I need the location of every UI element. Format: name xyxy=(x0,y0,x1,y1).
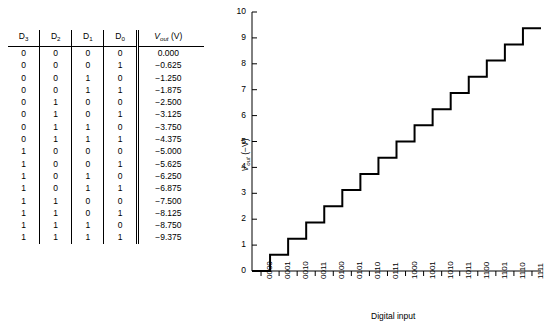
table-body: 00000.0000001−0.6250010−1.2500011−1.8750… xyxy=(8,47,204,244)
staircase-trace xyxy=(252,28,541,271)
table-row: 0010−1.250 xyxy=(8,72,204,84)
y-tick-label: 5 xyxy=(230,136,246,146)
x-tick-label: 1100 xyxy=(482,262,491,279)
cell-d1: 1 xyxy=(72,182,104,194)
cell-vout: −5.000 xyxy=(137,145,204,157)
table-row: 0001−0.625 xyxy=(8,59,204,71)
cell-d0: 0 xyxy=(104,72,137,84)
cell-d2: 1 xyxy=(40,231,72,243)
cell-d1: 0 xyxy=(72,145,104,157)
table-row: 1000−5.000 xyxy=(8,145,204,157)
cell-d0: 1 xyxy=(104,231,137,243)
cell-d3: 1 xyxy=(8,195,40,207)
table-row: 0111−4.375 xyxy=(8,133,204,145)
cell-vout: −0.625 xyxy=(137,59,204,71)
col-header-d1: D1 xyxy=(72,30,104,47)
cell-d2: 0 xyxy=(40,84,72,96)
table-row: 1100−7.500 xyxy=(8,195,204,207)
cell-d1: 1 xyxy=(72,72,104,84)
col-header-d2: D2 xyxy=(40,30,72,47)
cell-d3: 0 xyxy=(8,133,40,145)
cell-d3: 1 xyxy=(8,207,40,219)
y-tick-label: 3 xyxy=(230,187,246,197)
cell-d1: 0 xyxy=(72,59,104,71)
x-tick-label: 0100 xyxy=(337,261,346,279)
cell-d2: 0 xyxy=(40,158,72,170)
cell-vout: −9.375 xyxy=(137,231,204,243)
cell-d1: 0 xyxy=(72,108,104,120)
cell-vout: −1.250 xyxy=(137,72,204,84)
col-header-vout: Vout (V) xyxy=(137,30,204,47)
x-tick-label: 1001 xyxy=(428,261,437,279)
x-tick-label: 0111 xyxy=(391,262,400,279)
vout-unit: (V) xyxy=(171,31,182,41)
cell-d1: 0 xyxy=(72,96,104,108)
y-tick-label: 10 xyxy=(230,6,246,16)
cell-d2: 1 xyxy=(40,219,72,231)
x-tick-label: 1110 xyxy=(518,262,527,279)
dac-staircase-chart: Vout (−V) Digital input 012345678910 000… xyxy=(216,0,550,329)
cell-d3: 0 xyxy=(8,72,40,84)
cell-d3: 1 xyxy=(8,182,40,194)
cell-d0: 1 xyxy=(104,158,137,170)
x-tick-label: 0011 xyxy=(319,262,328,279)
d1-subscript: 1 xyxy=(89,35,92,42)
cell-d1: 0 xyxy=(72,158,104,170)
x-tick-label: 1101 xyxy=(500,262,509,279)
x-tick-label: 1111 xyxy=(536,263,545,279)
table-head: D3 D2 D1 D0 Vout (V) xyxy=(8,30,204,47)
cell-d0: 1 xyxy=(104,108,137,120)
cell-d1: 0 xyxy=(72,207,104,219)
cell-d2: 1 xyxy=(40,108,72,120)
cell-d3: 0 xyxy=(8,59,40,71)
cell-d1: 1 xyxy=(72,84,104,96)
x-tick-label: 0000 xyxy=(265,261,274,279)
x-tick-label: 0110 xyxy=(373,262,382,279)
cell-d2: 1 xyxy=(40,96,72,108)
y-tick-label: 0 xyxy=(230,265,246,275)
cell-d1: 1 xyxy=(72,170,104,182)
cell-vout: −8.750 xyxy=(137,219,204,231)
cell-vout: −4.375 xyxy=(137,133,204,145)
cell-d3: 1 xyxy=(8,231,40,243)
cell-d2: 1 xyxy=(40,207,72,219)
x-tick-label: 1010 xyxy=(446,261,455,279)
cell-vout: 0.000 xyxy=(137,47,204,60)
table-row: 0011−1.875 xyxy=(8,84,204,96)
truth-table-element: D3 D2 D1 D0 Vout (V) 00000.0000001−0.625… xyxy=(8,30,204,244)
cell-d0: 0 xyxy=(104,195,137,207)
cell-d0: 1 xyxy=(104,133,137,145)
cell-d3: 1 xyxy=(8,219,40,231)
cell-d2: 1 xyxy=(40,133,72,145)
d0-subscript: 0 xyxy=(121,35,124,42)
table-row: 1110−8.750 xyxy=(8,219,204,231)
cell-d0: 0 xyxy=(104,219,137,231)
table-header-row: D3 D2 D1 D0 Vout (V) xyxy=(8,30,204,47)
table-row: 1101−8.125 xyxy=(8,207,204,219)
cell-vout: −2.500 xyxy=(137,96,204,108)
cell-d0: 1 xyxy=(104,59,137,71)
table-row: 1001−5.625 xyxy=(8,158,204,170)
x-tick-label: 0010 xyxy=(301,261,310,279)
cell-d0: 1 xyxy=(104,207,137,219)
cell-d2: 0 xyxy=(40,72,72,84)
cell-vout: −7.500 xyxy=(137,195,204,207)
cell-d3: 1 xyxy=(8,145,40,157)
y-tick-label: 7 xyxy=(230,84,246,94)
cell-vout: −6.875 xyxy=(137,182,204,194)
col-header-d0: D0 xyxy=(104,30,137,47)
col-header-d3: D3 xyxy=(8,30,40,47)
y-tick-label: 4 xyxy=(230,161,246,171)
cell-vout: −5.625 xyxy=(137,158,204,170)
table-row: 1111−9.375 xyxy=(8,231,204,243)
y-tick-label: 6 xyxy=(230,110,246,120)
cell-d0: 0 xyxy=(104,145,137,157)
cell-d3: 1 xyxy=(8,170,40,182)
table-row: 0110−3.750 xyxy=(8,121,204,133)
cell-d2: 0 xyxy=(40,145,72,157)
cell-d0: 0 xyxy=(104,47,137,60)
table-row: 0100−2.500 xyxy=(8,96,204,108)
table-row: 00000.000 xyxy=(8,47,204,60)
y-tick-label: 2 xyxy=(230,213,246,223)
cell-d0: 1 xyxy=(104,84,137,96)
